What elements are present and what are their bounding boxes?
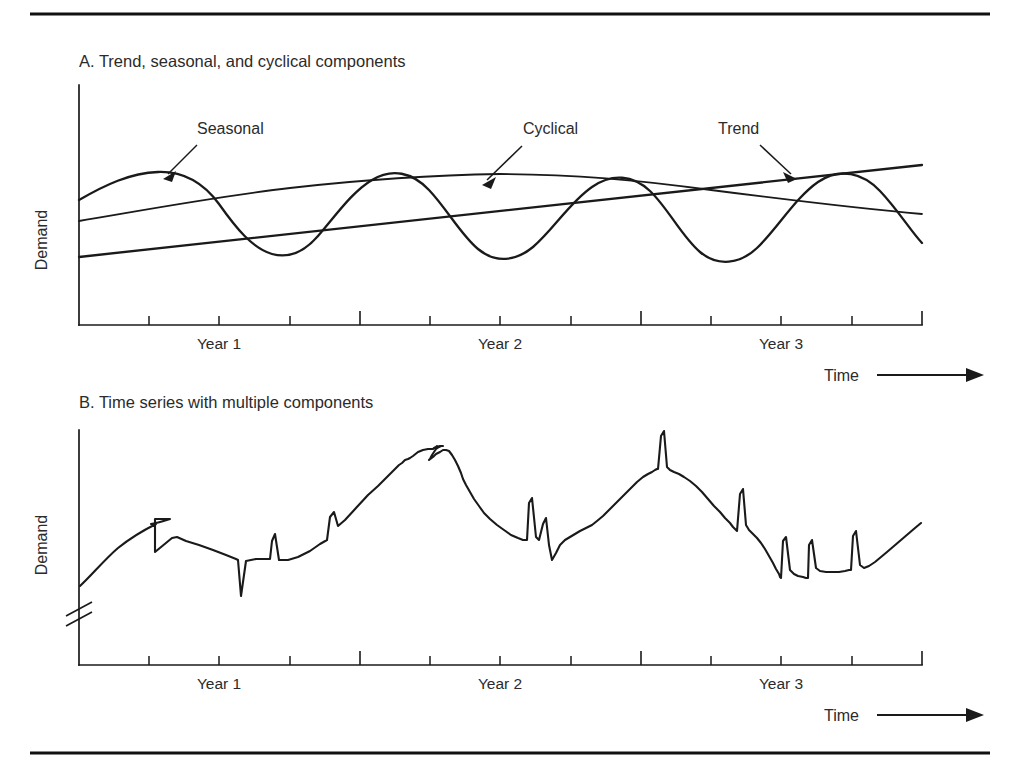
annotation-cyclical-label: Cyclical [523,120,578,137]
annotation-trend: Trend [718,120,797,183]
annotation-trend-label: Trend [718,120,759,137]
panel-b-x-axis-caption: Time [824,707,984,724]
figure-canvas: A. Trend, seasonal, and cyclical compone… [0,0,1026,768]
panel-b-y-axis-label: Demand [33,515,50,575]
panel-b-tick-label-year-1: Year 1 [197,675,241,692]
panel-a-tick-label-year-1: Year 1 [197,335,241,352]
figure-container: A. Trend, seasonal, and cyclical compone… [0,0,1026,768]
panel-b-title: B. Time series with multiple components [79,393,373,411]
annotation-seasonal-label: Seasonal [197,120,264,137]
panel-b-tick-label-year-2: Year 2 [478,675,522,692]
panel-b-tick-label-year-3: Year 3 [759,675,803,692]
panel-a-minor-ticks [149,316,852,325]
panel-a-tick-label-year-2: Year 2 [478,335,522,352]
panel-a-x-axis-caption-label: Time [824,367,859,384]
panel-a-x-axis-caption: Time [824,367,984,384]
panel-a-tick-label-year-3: Year 3 [759,335,803,352]
panel-b-x-axis-caption-label: Time [824,707,859,724]
panel-b-minor-ticks [149,656,852,665]
annotation-seasonal: Seasonal [163,120,264,182]
observed-demand-series [80,431,921,596]
cyclical-curve [79,174,922,221]
panel-b-major-ticks [360,651,922,665]
panel-a-y-axis-label: Demand [33,210,50,270]
panel-a-major-ticks [360,311,922,325]
panel-b-time-arrow-icon [966,708,984,722]
annotation-cyclical: Cyclical [482,120,578,189]
panel-a-title: A. Trend, seasonal, and cyclical compone… [79,52,406,70]
panel-a: A. Trend, seasonal, and cyclical compone… [33,52,984,384]
panel-a-time-arrow-icon [966,368,984,382]
seasonal-curve [79,172,922,262]
panel-b: B. Time series with multiple components … [33,393,984,724]
